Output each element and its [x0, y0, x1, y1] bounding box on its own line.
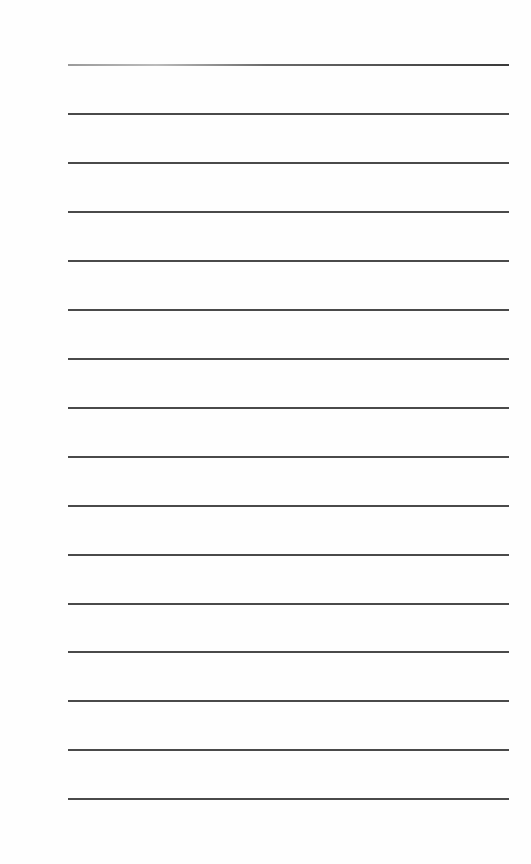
lined-paper-page [0, 0, 531, 864]
ruled-line [68, 554, 509, 556]
ruled-line [68, 700, 509, 702]
ruled-line [68, 64, 509, 66]
ruled-line [68, 358, 509, 360]
ruled-line [68, 505, 509, 507]
ruled-line [68, 407, 509, 409]
ruled-line [68, 309, 509, 311]
ruled-line [68, 603, 509, 605]
ruled-line [68, 651, 509, 653]
ruled-line [68, 162, 509, 164]
ruled-line [68, 749, 509, 751]
ruled-line [68, 260, 509, 262]
ruled-line [68, 211, 509, 213]
ruled-line [68, 798, 509, 800]
ruled-line [68, 456, 509, 458]
ruled-line [68, 113, 509, 115]
